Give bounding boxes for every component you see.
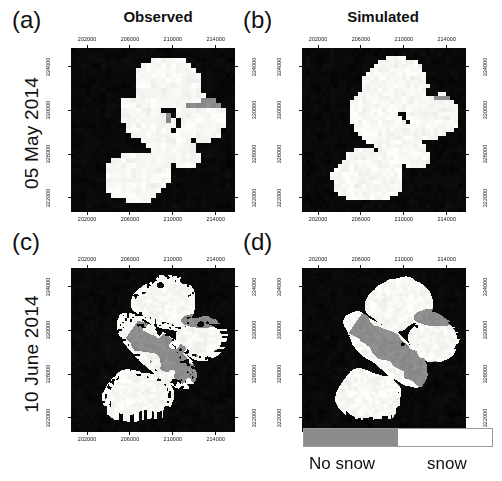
y-axis-tick-label: 334000 — [276, 270, 286, 304]
x-axis-tick-label: 206000 — [343, 36, 379, 42]
x-tickmark — [446, 45, 447, 48]
y-axis-tick-label: 326000 — [45, 137, 55, 171]
y-tickmark — [466, 286, 469, 287]
y-tickmark — [299, 154, 302, 155]
x-tickmark — [172, 432, 173, 435]
x-tickmark — [87, 265, 88, 268]
y-tickmark — [68, 154, 71, 155]
x-axis-tick-label: 210000 — [155, 36, 191, 42]
x-tickmark — [129, 212, 130, 215]
x-tickmark — [318, 212, 319, 215]
x-axis-tick-label: 214000 — [198, 36, 234, 42]
x-tickmark — [360, 212, 361, 215]
x-tickmark — [360, 265, 361, 268]
x-axis-tick-label: 210000 — [386, 36, 422, 42]
x-axis-tick-label: 206000 — [112, 436, 148, 442]
snow-cover-figure: 05 May 2014 10 June 2014 Observed Simula… — [0, 0, 502, 481]
map-canvas-a — [71, 48, 235, 212]
x-tickmark — [129, 432, 130, 435]
panel-letter-a: (a) — [12, 6, 41, 34]
y-tickmark — [68, 66, 71, 67]
map-canvas-c — [71, 268, 235, 432]
y-tickmark — [299, 374, 302, 375]
x-tickmark — [215, 212, 216, 215]
x-tickmark — [318, 45, 319, 48]
map-image-c — [71, 268, 235, 432]
y-tickmark — [68, 197, 71, 198]
y-tickmark — [299, 286, 302, 287]
x-axis-tick-label: 214000 — [198, 256, 234, 262]
x-axis-tick-label: 214000 — [429, 36, 465, 42]
x-axis-tick-label: 210000 — [155, 256, 191, 262]
x-axis-tick-label: 202000 — [69, 36, 105, 42]
x-tickmark — [403, 45, 404, 48]
x-axis-tick-label: 202000 — [300, 256, 336, 262]
panel-letter-d: (d) — [243, 228, 272, 256]
y-axis-tick-label: 326000 — [482, 357, 492, 391]
y-tickmark — [235, 154, 238, 155]
y-axis-tick-label: 322000 — [276, 181, 286, 215]
y-axis-tick-label: 322000 — [45, 401, 55, 435]
y-axis-tick-label: 330000 — [276, 313, 286, 347]
x-tickmark — [403, 212, 404, 215]
y-axis-tick-label: 326000 — [251, 137, 261, 171]
y-axis-tick-label: 330000 — [482, 93, 492, 127]
x-axis-tick-label: 202000 — [69, 436, 105, 442]
y-tickmark — [466, 417, 469, 418]
x-axis-tick-label: 202000 — [69, 256, 105, 262]
y-axis-tick-label: 330000 — [276, 93, 286, 127]
y-tickmark — [235, 330, 238, 331]
x-tickmark — [172, 212, 173, 215]
y-tickmark — [299, 110, 302, 111]
x-axis-tick-label: 206000 — [343, 256, 379, 262]
x-axis-tick-label: 206000 — [112, 36, 148, 42]
y-axis-tick-label: 326000 — [482, 137, 492, 171]
x-axis-tick-label: 214000 — [198, 216, 234, 222]
legend-swatch-snow — [398, 429, 492, 446]
x-tickmark — [87, 212, 88, 215]
x-axis-tick-label: 210000 — [386, 256, 422, 262]
y-axis-tick-label: 334000 — [276, 50, 286, 84]
legend-swatch-no-snow — [304, 429, 398, 446]
y-axis-tick-label: 330000 — [251, 313, 261, 347]
x-axis-tick-label: 214000 — [429, 216, 465, 222]
x-axis-tick-label: 210000 — [155, 436, 191, 442]
y-tickmark — [466, 66, 469, 67]
y-axis-tick-label: 330000 — [482, 313, 492, 347]
column-title-observed: Observed — [78, 8, 238, 25]
y-tickmark — [466, 374, 469, 375]
x-tickmark — [129, 45, 130, 48]
x-tickmark — [215, 45, 216, 48]
x-tickmark — [87, 432, 88, 435]
y-axis-tick-label: 330000 — [45, 313, 55, 347]
y-axis-tick-label: 326000 — [276, 137, 286, 171]
y-tickmark — [299, 417, 302, 418]
y-axis-tick-label: 334000 — [45, 50, 55, 84]
y-axis-tick-label: 322000 — [482, 181, 492, 215]
legend-label-no-snow: No snow — [309, 454, 375, 474]
y-tickmark — [68, 417, 71, 418]
y-tickmark — [299, 197, 302, 198]
y-axis-tick-label: 334000 — [45, 270, 55, 304]
y-axis-tick-label: 322000 — [251, 401, 261, 435]
x-tickmark — [215, 265, 216, 268]
y-tickmark — [466, 110, 469, 111]
y-tickmark — [299, 330, 302, 331]
y-axis-tick-label: 334000 — [251, 50, 261, 84]
y-tickmark — [235, 110, 238, 111]
y-axis-tick-label: 322000 — [251, 181, 261, 215]
y-tickmark — [466, 330, 469, 331]
y-tickmark — [68, 286, 71, 287]
x-tickmark — [129, 265, 130, 268]
y-tickmark — [299, 66, 302, 67]
legend: No snow snow — [303, 428, 493, 478]
map-canvas-d — [302, 268, 466, 432]
x-tickmark — [318, 265, 319, 268]
y-tickmark — [235, 286, 238, 287]
x-axis-tick-label: 210000 — [155, 216, 191, 222]
row-label-june: 10 June 2014 — [21, 274, 43, 434]
map-image-b — [302, 48, 466, 212]
y-axis-tick-label: 322000 — [45, 181, 55, 215]
x-axis-tick-label: 202000 — [300, 216, 336, 222]
x-tickmark — [87, 45, 88, 48]
